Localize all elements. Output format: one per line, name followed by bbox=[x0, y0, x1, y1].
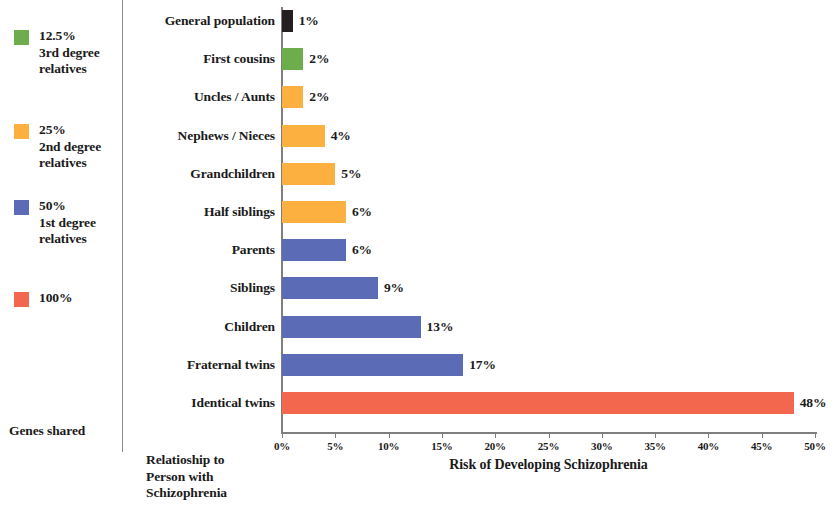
legend-entry-line: 50% bbox=[39, 198, 123, 215]
bar-value-label: 2% bbox=[309, 48, 329, 70]
bar-value-label: 13% bbox=[427, 316, 454, 338]
bar-value-label: 48% bbox=[800, 392, 827, 414]
bar-value-label: 17% bbox=[469, 354, 496, 376]
bar bbox=[282, 201, 346, 223]
bar bbox=[282, 10, 293, 32]
x-axis-tick-label: 0% bbox=[262, 440, 302, 452]
category-label: Identical twins bbox=[115, 395, 275, 411]
legend-entry-line: relatives bbox=[39, 61, 123, 78]
bar bbox=[282, 316, 421, 338]
bar-value-label: 5% bbox=[341, 163, 361, 185]
bar-value-label: 1% bbox=[299, 10, 319, 32]
x-axis-tick-label: 25% bbox=[529, 440, 569, 452]
x-axis-tick bbox=[762, 433, 763, 438]
legend-entry-line: 25% bbox=[39, 122, 123, 139]
x-axis-tick-label: 40% bbox=[688, 440, 728, 452]
x-axis-tick-label: 35% bbox=[635, 440, 675, 452]
legend-panel: 12.5%3rd degreerelatives25%2nd degreerel… bbox=[0, 0, 122, 505]
x-axis-tick-label: 50% bbox=[795, 440, 835, 452]
x-axis-tick bbox=[602, 433, 603, 438]
bar bbox=[282, 125, 325, 147]
legend-entry-line: relatives bbox=[39, 155, 123, 172]
category-label: Parents bbox=[115, 242, 275, 258]
x-axis-tick bbox=[815, 433, 816, 438]
legend-entry-line: 2nd degree bbox=[39, 139, 123, 156]
legend-swatch-red bbox=[14, 292, 29, 307]
x-axis-tick-label: 5% bbox=[315, 440, 355, 452]
x-axis-tick bbox=[708, 433, 709, 438]
x-axis-tick bbox=[389, 433, 390, 438]
schizophrenia-risk-chart: 12.5%3rd degreerelatives25%2nd degreerel… bbox=[0, 0, 837, 505]
category-label: General population bbox=[115, 13, 275, 29]
x-axis-tick bbox=[442, 433, 443, 438]
legend-swatch-green bbox=[14, 30, 29, 45]
bar bbox=[282, 277, 378, 299]
y-axis-title: Relatioship toPerson withSchizophrenia bbox=[146, 452, 281, 502]
legend-entry-label: 50%1st degreerelatives bbox=[39, 198, 123, 248]
category-label: Uncles / Aunts bbox=[115, 89, 275, 105]
x-axis-tick-label: 10% bbox=[369, 440, 409, 452]
bar-value-label: 4% bbox=[331, 125, 351, 147]
x-axis-tick bbox=[549, 433, 550, 438]
category-label: Fraternal twins bbox=[115, 357, 275, 373]
category-label: Children bbox=[115, 319, 275, 335]
legend-entry-label: 12.5%3rd degreerelatives bbox=[39, 28, 123, 78]
legend-entry-line: 3rd degree bbox=[39, 45, 123, 62]
category-label: First cousins bbox=[115, 51, 275, 67]
y-axis-title-line: Relatioship to bbox=[146, 452, 281, 469]
bar bbox=[282, 354, 463, 376]
legend-entry-line: 1st degree bbox=[39, 215, 123, 232]
legend-entry-label: 25%2nd degreerelatives bbox=[39, 122, 123, 172]
bar-value-label: 6% bbox=[352, 201, 372, 223]
x-axis-tick bbox=[655, 433, 656, 438]
legend-entry-line: relatives bbox=[39, 231, 123, 248]
category-label: Siblings bbox=[115, 280, 275, 296]
legend-title: Genes shared bbox=[9, 423, 85, 439]
category-label: Half siblings bbox=[115, 204, 275, 220]
x-axis-tick-label: 45% bbox=[742, 440, 782, 452]
x-axis-tick bbox=[495, 433, 496, 438]
bar bbox=[282, 48, 303, 70]
x-axis-tick bbox=[335, 433, 336, 438]
bar bbox=[282, 239, 346, 261]
chart-area: General populationFirst cousinsUncles / … bbox=[130, 0, 837, 505]
legend-swatch-orange bbox=[14, 124, 29, 139]
bar-value-label: 2% bbox=[309, 86, 329, 108]
x-axis-title: Risk of Developing Schizophrenia bbox=[282, 457, 815, 473]
bar bbox=[282, 392, 794, 414]
x-axis-tick bbox=[282, 433, 283, 438]
x-axis-tick-label: 15% bbox=[422, 440, 462, 452]
bar bbox=[282, 163, 335, 185]
category-label: Nephews / Nieces bbox=[115, 128, 275, 144]
bar-value-label: 6% bbox=[352, 239, 372, 261]
bar-value-label: 9% bbox=[384, 277, 404, 299]
category-label: Grandchildren bbox=[115, 166, 275, 182]
legend-swatch-blue bbox=[14, 200, 29, 215]
x-axis-tick-label: 20% bbox=[475, 440, 515, 452]
y-axis-title-line: Person with bbox=[146, 469, 281, 486]
x-axis-tick-label: 30% bbox=[582, 440, 622, 452]
y-axis-title-line: Schizophrenia bbox=[146, 485, 281, 502]
bar bbox=[282, 86, 303, 108]
legend-entry-line: 12.5% bbox=[39, 28, 123, 45]
legend-entry-line: 100% bbox=[39, 290, 123, 307]
legend-divider bbox=[122, 0, 123, 452]
legend-entry-label: 100% bbox=[39, 290, 123, 307]
plot-region: 1%2%2%4%5%6%6%9%13%17%48% 0%5%10%15%20%2… bbox=[282, 8, 815, 438]
